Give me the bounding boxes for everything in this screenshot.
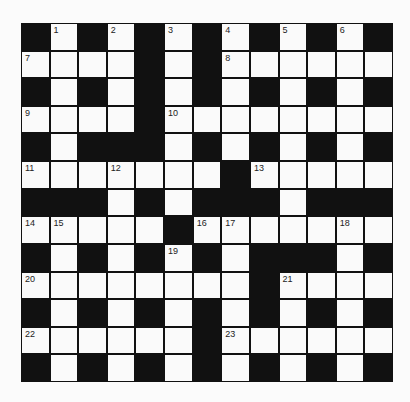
answer-cell[interactable] <box>222 245 249 271</box>
answer-cell[interactable] <box>222 134 249 160</box>
answer-cell[interactable] <box>51 300 78 326</box>
answer-cell[interactable] <box>280 134 307 160</box>
answer-cell[interactable] <box>79 328 106 354</box>
answer-cell[interactable] <box>337 328 364 354</box>
answer-cell[interactable]: 2 <box>108 24 135 50</box>
answer-cell[interactable] <box>222 300 249 326</box>
answer-cell[interactable] <box>308 328 335 354</box>
answer-cell[interactable]: 5 <box>280 24 307 50</box>
answer-cell[interactable] <box>337 107 364 133</box>
answer-cell[interactable] <box>51 328 78 354</box>
answer-cell[interactable] <box>51 245 78 271</box>
answer-cell[interactable]: 22 <box>22 328 49 354</box>
answer-cell[interactable] <box>51 52 78 78</box>
answer-cell[interactable]: 4 <box>222 24 249 50</box>
answer-cell[interactable] <box>51 134 78 160</box>
answer-cell[interactable] <box>51 355 78 381</box>
answer-cell[interactable] <box>337 300 364 326</box>
answer-cell[interactable] <box>165 134 192 160</box>
answer-cell[interactable] <box>108 245 135 271</box>
answer-cell[interactable] <box>337 273 364 299</box>
answer-cell[interactable] <box>365 52 392 78</box>
answer-cell[interactable] <box>165 328 192 354</box>
answer-cell[interactable] <box>108 217 135 243</box>
answer-cell[interactable] <box>165 273 192 299</box>
answer-cell[interactable] <box>165 355 192 381</box>
answer-cell[interactable] <box>51 79 78 105</box>
answer-cell[interactable] <box>51 273 78 299</box>
answer-cell[interactable] <box>280 355 307 381</box>
answer-cell[interactable]: 7 <box>22 52 49 78</box>
answer-cell[interactable]: 21 <box>280 273 307 299</box>
answer-cell[interactable] <box>280 190 307 216</box>
answer-cell[interactable] <box>108 273 135 299</box>
answer-cell[interactable] <box>136 328 163 354</box>
answer-cell[interactable] <box>79 162 106 188</box>
answer-cell[interactable] <box>308 273 335 299</box>
answer-cell[interactable]: 10 <box>165 107 192 133</box>
answer-cell[interactable] <box>165 300 192 326</box>
answer-cell[interactable] <box>194 107 221 133</box>
answer-cell[interactable] <box>108 79 135 105</box>
answer-cell[interactable] <box>251 217 278 243</box>
answer-cell[interactable]: 23 <box>222 328 249 354</box>
answer-cell[interactable] <box>108 328 135 354</box>
answer-cell[interactable] <box>108 52 135 78</box>
answer-cell[interactable]: 9 <box>22 107 49 133</box>
answer-cell[interactable]: 19 <box>165 245 192 271</box>
answer-cell[interactable] <box>108 107 135 133</box>
answer-cell[interactable] <box>108 355 135 381</box>
answer-cell[interactable] <box>136 273 163 299</box>
answer-cell[interactable] <box>251 52 278 78</box>
answer-cell[interactable] <box>337 355 364 381</box>
answer-cell[interactable] <box>280 107 307 133</box>
answer-cell[interactable] <box>337 134 364 160</box>
answer-cell[interactable] <box>136 162 163 188</box>
answer-cell[interactable]: 12 <box>108 162 135 188</box>
answer-cell[interactable] <box>308 52 335 78</box>
answer-cell[interactable] <box>337 52 364 78</box>
answer-cell[interactable]: 11 <box>22 162 49 188</box>
answer-cell[interactable] <box>222 355 249 381</box>
answer-cell[interactable] <box>251 107 278 133</box>
answer-cell[interactable] <box>308 217 335 243</box>
answer-cell[interactable] <box>365 217 392 243</box>
answer-cell[interactable] <box>79 217 106 243</box>
answer-cell[interactable]: 18 <box>337 217 364 243</box>
answer-cell[interactable] <box>165 52 192 78</box>
answer-cell[interactable] <box>337 162 364 188</box>
answer-cell[interactable] <box>165 190 192 216</box>
answer-cell[interactable]: 20 <box>22 273 49 299</box>
answer-cell[interactable] <box>280 300 307 326</box>
answer-cell[interactable]: 17 <box>222 217 249 243</box>
answer-cell[interactable] <box>108 300 135 326</box>
answer-cell[interactable] <box>280 328 307 354</box>
answer-cell[interactable] <box>79 107 106 133</box>
answer-cell[interactable]: 8 <box>222 52 249 78</box>
answer-cell[interactable] <box>280 79 307 105</box>
answer-cell[interactable]: 13 <box>251 162 278 188</box>
answer-cell[interactable]: 1 <box>51 24 78 50</box>
answer-cell[interactable] <box>337 79 364 105</box>
answer-cell[interactable]: 3 <box>165 24 192 50</box>
answer-cell[interactable] <box>108 190 135 216</box>
answer-cell[interactable] <box>222 79 249 105</box>
answer-cell[interactable]: 15 <box>51 217 78 243</box>
answer-cell[interactable] <box>365 107 392 133</box>
answer-cell[interactable]: 14 <box>22 217 49 243</box>
answer-cell[interactable] <box>251 328 278 354</box>
answer-cell[interactable] <box>222 107 249 133</box>
answer-cell[interactable] <box>280 52 307 78</box>
answer-cell[interactable] <box>194 273 221 299</box>
answer-cell[interactable] <box>337 245 364 271</box>
answer-cell[interactable] <box>165 162 192 188</box>
answer-cell[interactable] <box>365 328 392 354</box>
answer-cell[interactable] <box>165 79 192 105</box>
answer-cell[interactable]: 16 <box>194 217 221 243</box>
answer-cell[interactable] <box>79 273 106 299</box>
answer-cell[interactable] <box>222 273 249 299</box>
answer-cell[interactable]: 6 <box>337 24 364 50</box>
answer-cell[interactable] <box>194 162 221 188</box>
answer-cell[interactable] <box>51 107 78 133</box>
answer-cell[interactable] <box>280 162 307 188</box>
